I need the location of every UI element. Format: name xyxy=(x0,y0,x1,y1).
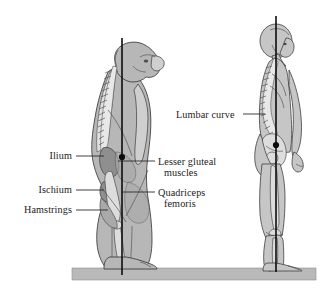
label-hamstrings: Hamstrings xyxy=(24,204,72,215)
label-quadriceps-femoris-line1: Quadriceps xyxy=(158,187,205,198)
ape-center-of-mass xyxy=(119,154,125,160)
ape-eye xyxy=(144,59,148,62)
human-eye xyxy=(283,43,286,46)
label-quadriceps-femoris-line2: femoris xyxy=(164,198,196,209)
human-hand xyxy=(292,152,303,172)
label-ischium: Ischium xyxy=(38,184,72,195)
human-foot xyxy=(263,263,302,271)
human-figure xyxy=(255,16,304,272)
label-lesser-gluteal-muscles-line2: muscles xyxy=(164,167,198,178)
human-center-of-mass xyxy=(273,142,279,148)
posture-comparison-figure: Ilium Ischium Hamstrings Lesser gluteal … xyxy=(0,0,332,293)
ape-figure xyxy=(92,38,164,275)
diagram-canvas: Ilium Ischium Hamstrings Lesser gluteal … xyxy=(0,0,332,293)
ape-muzzle xyxy=(151,56,164,71)
label-lumbar-curve: Lumbar curve xyxy=(176,109,235,120)
label-lesser-gluteal-muscles-line1: Lesser gluteal xyxy=(158,156,216,167)
label-ilium: Ilium xyxy=(49,150,72,161)
